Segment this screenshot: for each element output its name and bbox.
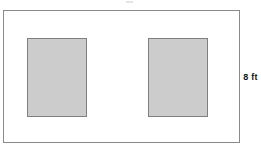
scan-speck-artifact bbox=[126, 1, 133, 3]
right-shaded-rectangle bbox=[148, 38, 208, 117]
dimension-label-right: 8 ft bbox=[240, 72, 261, 83]
geometry-diagram: 8 ft bbox=[0, 0, 261, 153]
left-shaded-rectangle bbox=[27, 38, 87, 117]
